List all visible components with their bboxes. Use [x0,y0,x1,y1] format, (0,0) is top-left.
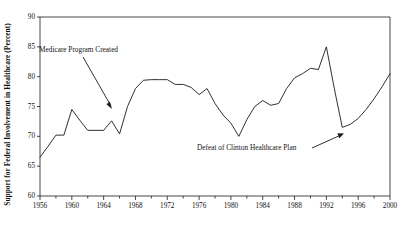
y-tick-label: 85 [20,43,35,51]
y-tick-label: 70 [20,132,35,140]
clinton-arrow-icon [312,133,344,148]
y-tick-label: 60 [20,192,35,200]
annotation-clinton-label: Defeat of Clinton Healthcare Plan [197,143,296,152]
y-tick-label: 80 [20,73,35,81]
y-tick-label: 75 [20,103,35,111]
x-tick-label: 1988 [287,202,301,210]
x-tick-label: 1976 [192,202,206,210]
x-axis-ticks [40,196,390,200]
data-series-line [40,47,390,157]
annotation-medicare-label: Medicare Program Created [39,45,118,54]
y-axis-ticks [37,17,40,196]
x-tick-label: 1960 [65,202,79,210]
x-tick-label: 1984 [256,202,270,210]
x-tick-label: 1992 [319,202,333,210]
x-tick-label: 1956 [33,202,47,210]
chart-figure: Support for Federal Involvement in Healt… [0,0,410,229]
x-tick-label: 1972 [160,202,174,210]
medicare-arrow-icon [83,57,112,109]
x-tick-label: 1996 [351,202,365,210]
x-tick-label: 1964 [96,202,110,210]
chart-plot-area [0,0,410,229]
x-tick-label: 1968 [128,202,142,210]
annotation-arrows [83,57,344,148]
y-tick-label: 65 [20,162,35,170]
y-tick-label: 90 [20,13,35,21]
axis-lines [40,17,390,196]
x-tick-label: 1980 [224,202,238,210]
x-tick-label: 2000 [383,202,397,210]
